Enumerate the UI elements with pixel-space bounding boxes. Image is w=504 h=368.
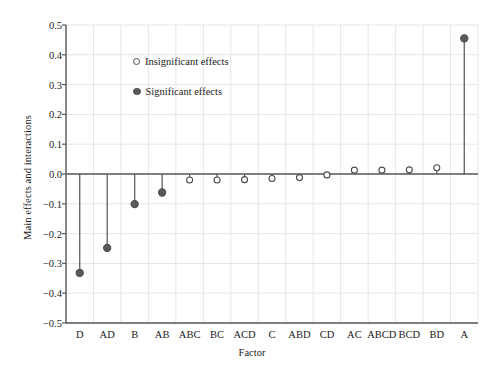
y-tick-label: −0.4 <box>22 288 62 299</box>
x-tick-label-ACD: ACD <box>233 329 255 340</box>
legend-label-significant: Significant effects <box>146 86 223 97</box>
x-tick-label-A: A <box>460 329 468 340</box>
x-tick-label-BD: BD <box>430 329 445 340</box>
x-tick-label-ABD: ABD <box>288 329 310 340</box>
open-circle-marker[interactable] <box>406 167 412 173</box>
filled-circle-marker[interactable] <box>159 189 166 196</box>
datapoint-D[interactable]: D: -0.332 <box>76 269 83 276</box>
x-tick-label-C: C <box>268 329 275 340</box>
y-tick-label: 0.0 <box>22 169 62 180</box>
y-tick-label: −0.5 <box>22 318 62 329</box>
datapoint-ABCD[interactable]: ABCD: 0.013 <box>379 167 385 173</box>
datapoint-ABC[interactable]: ABC: -0.02 <box>187 177 193 183</box>
y-tick-label: 0.5 <box>22 20 62 31</box>
x-axis-title: Factor <box>0 347 504 358</box>
open-circle-marker[interactable] <box>324 172 330 178</box>
open-circle-marker[interactable] <box>434 165 440 171</box>
datapoint-AB[interactable]: AB: -0.062 <box>159 189 166 196</box>
x-tick-label-AB: AB <box>155 329 170 340</box>
x-tick-label-B: B <box>131 329 138 340</box>
datapoint-BCD[interactable]: BCD: 0.014 <box>406 167 412 173</box>
filled-circle-marker[interactable] <box>76 269 83 276</box>
legend-item-significant: Significant effects <box>133 86 222 97</box>
y-tick-label: −0.1 <box>22 198 62 209</box>
datapoint-A[interactable]: A: 0.455 <box>461 35 468 42</box>
x-tick-label-BCD: BCD <box>399 329 421 340</box>
datapoint-AC[interactable]: AC: 0.013 <box>351 167 357 173</box>
x-tick-label-ABC: ABC <box>179 329 201 340</box>
x-tick-label-AD: AD <box>100 329 115 340</box>
open-circle-marker[interactable] <box>187 177 193 183</box>
plot-canvas: D: -0.332AD: -0.248B: -0.101AB: -0.062AB… <box>0 0 504 368</box>
filled-circle-marker[interactable] <box>104 244 111 251</box>
filled-circle-icon <box>133 88 141 96</box>
y-tick-label: −0.2 <box>22 228 62 239</box>
x-tick-label-ABCD: ABCD <box>367 329 396 340</box>
legend-item-insignificant: Insignificant effects <box>133 56 228 67</box>
x-tick-label-D: D <box>76 329 84 340</box>
x-tick-label-BC: BC <box>210 329 224 340</box>
filled-circle-marker[interactable] <box>131 200 138 207</box>
datapoint-CD[interactable]: CD: -0.003 <box>324 172 330 178</box>
y-tick-label: 0.1 <box>22 139 62 150</box>
open-circle-marker[interactable] <box>379 167 385 173</box>
x-tick-label-CD: CD <box>320 329 335 340</box>
open-circle-icon <box>133 58 140 65</box>
datapoint-BD[interactable]: BD: 0.021 <box>434 165 440 171</box>
open-circle-marker[interactable] <box>214 177 220 183</box>
effects-plot: D: -0.332AD: -0.248B: -0.101AB: -0.062AB… <box>0 0 504 368</box>
x-tick-label-AC: AC <box>347 329 362 340</box>
open-circle-marker[interactable] <box>269 175 275 181</box>
y-axis-ticks: 0.50.40.30.20.10.0−0.1−0.2−0.3−0.4−0.5 <box>20 0 62 368</box>
datapoint-ABD[interactable]: ABD: -0.012 <box>296 175 302 181</box>
datapoint-BC[interactable]: BC: -0.02 <box>214 177 220 183</box>
datapoint-C[interactable]: C: -0.015 <box>269 175 275 181</box>
y-tick-label: 0.2 <box>22 109 62 120</box>
legend-label-insignificant: Insignificant effects <box>145 56 228 67</box>
datapoint-AD[interactable]: AD: -0.248 <box>104 244 111 251</box>
open-circle-marker[interactable] <box>296 175 302 181</box>
y-tick-label: 0.3 <box>22 79 62 90</box>
y-tick-label: −0.3 <box>22 258 62 269</box>
open-circle-marker[interactable] <box>242 177 248 183</box>
filled-circle-marker[interactable] <box>461 35 468 42</box>
datapoint-B[interactable]: B: -0.101 <box>131 200 138 207</box>
datapoint-ACD[interactable]: ACD: -0.019 <box>242 177 248 183</box>
open-circle-marker[interactable] <box>351 167 357 173</box>
y-tick-label: 0.4 <box>22 49 62 60</box>
